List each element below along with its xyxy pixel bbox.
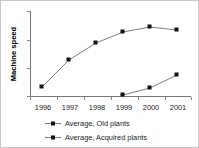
data-point-acquired-2000 [148,86,152,90]
x-tick-label-1996: 1996 [35,103,51,112]
x-tick-label-1999: 1999 [116,103,132,112]
x-tick-label-2000: 2000 [143,103,159,112]
data-point-old-2000 [148,25,152,29]
chart-axes [31,11,192,97]
data-point-acquired-2001 [175,73,179,77]
data-point-old-1996 [40,85,44,89]
legend-entry-acquired-plants: Average, Acquired plants [45,133,147,142]
data-point-old-1998 [94,41,98,45]
series-old-plants-line [42,27,177,87]
x-tick-label-1998: 1998 [89,103,105,112]
series-average-old-plants [40,25,179,89]
chart-figure: 1996 1997 1998 1999 2000 2001 Machine sp… [0,0,199,148]
legend-label-old-plants: Average, Old plants [65,119,130,128]
x-tick-label-2001: 2001 [170,103,186,112]
x-axis-ticks [31,97,192,101]
data-point-old-1997 [67,58,71,62]
x-tick-label-1997: 1997 [62,103,78,112]
y-axis-ticks [27,12,31,97]
data-point-acquired-1999 [121,93,125,97]
legend-marker-acquired-plants [51,136,55,140]
x-tick-labels: 1996 1997 1998 1999 2000 2001 [35,103,186,112]
legend-entry-old-plants: Average, Old plants [45,119,130,128]
legend-marker-old-plants [51,122,55,126]
data-point-old-2001 [175,28,179,32]
data-point-old-1999 [121,30,125,34]
series-acquired-plants-line [123,75,177,95]
y-axis-title: Machine speed [9,26,18,81]
chart-legend: Average, Old plants Average, Acquired pl… [45,119,147,142]
legend-label-acquired-plants: Average, Acquired plants [65,133,147,142]
line-chart: 1996 1997 1998 1999 2000 2001 Machine sp… [1,1,199,148]
series-average-acquired-plants [121,73,179,97]
